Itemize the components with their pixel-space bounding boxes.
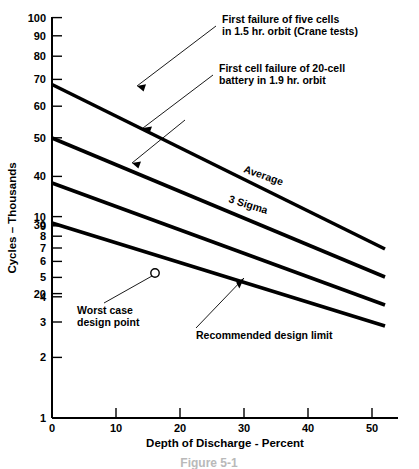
y-label-4: 4 [40,291,47,303]
x-label-50: 50 [366,422,378,434]
x-axis-tick-labels: 0 10 20 30 40 50 [49,422,378,434]
y-axis-ticks-lower [52,217,62,418]
annotation-worst-case-line-1: Worst case [77,304,133,316]
worst-case-design-point-marker [151,269,159,277]
x-label-0: 0 [49,422,55,434]
leader-line-crane [137,26,216,86]
y-label-90: 90 [34,30,46,42]
y-label-80: 80 [34,50,46,62]
data-series-group [52,85,385,327]
annotation-design-limit-text: Recommended design limit [196,329,333,341]
x-axis-ticks [52,408,372,418]
y-label-3: 3 [40,316,46,328]
y-label-6: 6 [40,255,46,267]
x-label-20: 20 [174,422,186,434]
y-axis-tick-labels: 100 90 80 70 60 50 40 30 20 10 9 8 7 6 5… [28,12,47,425]
x-axis-title: Depth of Discharge - Percent [146,437,304,449]
y-label-1: 1 [40,412,46,424]
annotation-crane-line-1: First failure of five cells [222,13,339,25]
inline-label-average: Average [242,163,285,188]
y-label-70: 70 [34,73,46,85]
x-label-40: 40 [302,422,314,434]
y-label-60: 60 [34,100,46,112]
y-label-50: 50 [34,132,46,144]
series-line-average [52,183,385,305]
series-line-20-cell-battery [52,138,385,277]
annotation-crane-line-2: in 1.5 hr. orbit (Crane tests) [222,25,358,37]
x-label-30: 30 [238,422,250,434]
cycles-vs-depth-of-discharge-chart: 100 90 80 70 60 50 40 30 20 10 9 8 7 6 5… [0,0,419,469]
annotation-worst-case-line-2: design point [77,316,140,328]
leader-line-worst-case [104,276,152,303]
y-axis-ticks [52,18,62,294]
y-label-40: 40 [34,170,46,182]
series-line-crane-tests [52,85,385,250]
leader-line-20-cell [143,75,213,128]
annotation-20-cell-battery: First cell failure of 20-cell battery in… [143,62,345,133]
y-label-8: 8 [40,230,46,242]
figure-container: 100 90 80 70 60 50 40 30 20 10 9 8 7 6 5… [0,0,419,469]
annotation-worst-case-design-point: Worst case design point [77,276,152,328]
y-label-100: 100 [28,12,46,24]
x-label-10: 10 [110,422,122,434]
figure-caption: Figure 5-1 [180,456,238,469]
annotation-20-cell-line-2: battery in 1.9 hr. orbit [219,74,326,86]
leader-line-design-limit [196,278,244,328]
annotation-20-cell-line-1: First cell failure of 20-cell [219,62,345,74]
y-label-7: 7 [40,242,46,254]
y-axis-title: Cycles – Thousands [6,162,18,273]
y-label-2: 2 [40,351,46,363]
y-label-5: 5 [40,271,46,283]
